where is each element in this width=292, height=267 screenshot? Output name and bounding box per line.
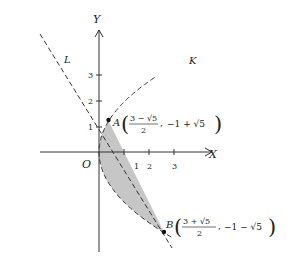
point-b	[162, 230, 166, 234]
point-a	[106, 118, 110, 122]
y-tick-2: 2	[88, 97, 93, 106]
y-tick-3: 3	[88, 71, 93, 80]
x-tick-1: 1	[134, 162, 139, 171]
svg-text:3 + √5: 3 + √5	[183, 217, 210, 226]
svg-text:,: ,	[160, 118, 163, 128]
curve-k-label: K	[188, 55, 197, 66]
shaded-region-fill	[99, 121, 164, 233]
origin-label: O	[82, 158, 91, 171]
curve-l-label: L	[63, 54, 71, 65]
svg-text:3 − √5: 3 − √5	[130, 114, 157, 123]
x-tick-3: 3	[172, 162, 177, 171]
point-a-label: A ( 3 − √5 2 , −1 + √5 )	[112, 112, 222, 136]
x-tick-2: 2	[147, 162, 152, 171]
svg-text:2: 2	[197, 229, 202, 238]
y-tick-1: 1	[88, 123, 93, 132]
svg-text:(: (	[121, 112, 129, 136]
y-axis-label: Y	[93, 13, 102, 26]
svg-text:2: 2	[141, 126, 146, 135]
point-b-label: B ( 3 + √5 2 , −1 − √5 )	[165, 215, 276, 239]
svg-text:−1 − √5: −1 − √5	[224, 222, 262, 232]
diagram-canvas: Y X O 1 2 3 1 2 3 L K A ( 3 − √5 2 , −1 …	[0, 0, 292, 267]
svg-text:): )	[268, 215, 276, 239]
svg-text:): )	[214, 112, 222, 136]
svg-text:B: B	[165, 219, 173, 230]
x-axis-label: X	[208, 148, 218, 161]
svg-text:(: (	[174, 215, 182, 239]
svg-text:,: ,	[218, 221, 221, 231]
diagram: Y X O 1 2 3 1 2 3 L K A ( 3 − √5 2 , −1 …	[0, 0, 292, 267]
svg-text:A: A	[112, 117, 120, 128]
svg-text:−1 + √5: −1 + √5	[167, 119, 205, 129]
